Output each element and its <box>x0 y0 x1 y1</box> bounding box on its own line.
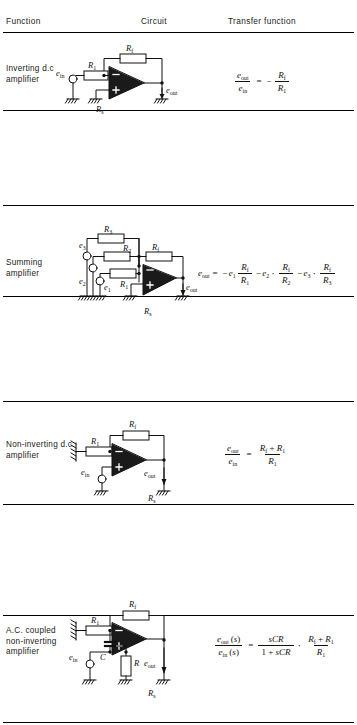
function-name-line1: Inverting d.c <box>6 64 54 73</box>
table-row: Differentiator <box>0 615 357 722</box>
table-row: Summing amplifier <box>0 110 357 205</box>
column-headers: Function Circuit Transfer function <box>0 16 357 30</box>
header-transfer-function: Transfer function <box>228 16 296 26</box>
table-row: A.C. coupled non-inverting amplifier <box>0 296 357 401</box>
terminal-circle <box>69 75 77 83</box>
ground-hatch <box>66 99 80 103</box>
opamp-triangle <box>109 67 144 99</box>
header-function: Function <box>6 16 41 26</box>
table-row: Inverting d.c amplifier <box>0 32 357 110</box>
circuit-diagram-inverting: Rf R1 ein eout Rs <box>82 36 207 112</box>
label-r1: R1 <box>87 60 96 71</box>
label-eout: eout <box>166 85 178 96</box>
label-rf: Rf <box>125 43 133 54</box>
resistor-box <box>120 54 146 63</box>
opamp-reference-table: Function Circuit Transfer function Inver… <box>0 0 357 725</box>
clipped-top-text <box>7 0 187 6</box>
ground-hatch <box>155 99 169 103</box>
arrow-head <box>160 94 165 99</box>
divider <box>3 722 354 723</box>
ground-hatch <box>89 99 103 103</box>
header-circuit: Circuit <box>141 16 167 26</box>
table-row: D.C. differential amplifier <box>0 401 357 504</box>
transfer-function-inverting: eout ein = − Rf R1 <box>232 70 291 94</box>
table-row: Integrator <box>0 504 357 615</box>
table-row: Non-inverting d.c. amplifier <box>0 205 357 296</box>
function-name-line2: amplifier <box>6 75 39 84</box>
